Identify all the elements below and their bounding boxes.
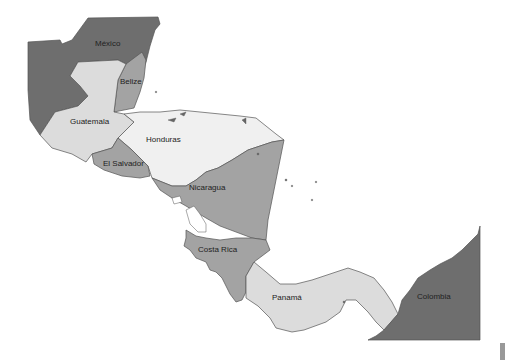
label-nicaragua: Nicaragua <box>189 183 226 192</box>
label-costa-rica: Costa Rica <box>198 245 238 254</box>
central-america-map: México Belize Guatemala Honduras El Salv… <box>0 0 505 360</box>
label-guatemala: Guatemala <box>70 117 110 126</box>
label-panama: Panamá <box>272 293 302 302</box>
label-belize: Belize <box>120 77 142 86</box>
label-honduras: Honduras <box>146 135 181 144</box>
scrollbar-stub[interactable] <box>500 343 505 360</box>
label-el-salvador: El Salvador <box>103 159 144 168</box>
label-colombia: Colombia <box>417 292 451 301</box>
label-mexico: México <box>95 39 121 48</box>
country-panama[interactable] <box>246 262 398 332</box>
